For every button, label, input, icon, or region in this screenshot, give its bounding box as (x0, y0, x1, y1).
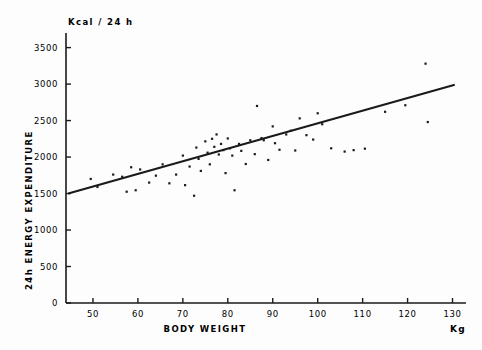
data-point (215, 133, 217, 135)
x-tick-label: 70 (177, 309, 189, 319)
data-point (299, 117, 301, 119)
data-point (272, 125, 274, 127)
data-point (256, 105, 258, 107)
data-point (90, 178, 92, 180)
chart-figure: Kcal / 24 h 24h ENERGY EXPENDITURE BODY … (0, 0, 482, 350)
data-point (182, 154, 184, 156)
data-point (240, 150, 242, 152)
data-point (317, 112, 319, 114)
y-axis-label: 24h ENERGY EXPENDITURE (24, 130, 34, 290)
x-tick-group: 5060708090100110120130 (87, 298, 462, 319)
y-tick-label: 3000 (34, 79, 58, 89)
x-tick-label: 80 (222, 309, 234, 319)
x-tick-label: 90 (267, 309, 279, 319)
data-point (218, 153, 220, 155)
data-point (126, 191, 128, 193)
data-point (231, 154, 233, 156)
y-axis-unit-title: Kcal / 24 h (68, 17, 134, 27)
data-point (162, 163, 164, 165)
data-point (263, 139, 265, 141)
data-point (290, 130, 292, 132)
data-point (260, 137, 262, 139)
data-point (267, 159, 269, 161)
data-point (249, 139, 251, 141)
data-point (229, 147, 231, 149)
data-point (193, 195, 195, 197)
scatter-plot: Kcal / 24 h 24h ENERGY EXPENDITURE BODY … (0, 0, 482, 350)
data-point (155, 175, 157, 177)
data-point (278, 149, 280, 151)
data-point (312, 138, 314, 140)
y-tick-label: 2500 (34, 116, 58, 126)
data-point (148, 181, 150, 183)
data-point (233, 189, 235, 191)
y-tick-label: 1000 (34, 225, 58, 235)
data-point (245, 163, 247, 165)
x-tick-label: 50 (87, 309, 99, 319)
data-point (184, 184, 186, 186)
data-point (168, 182, 170, 184)
data-point (96, 186, 98, 188)
data-point (195, 146, 197, 148)
data-point (206, 152, 208, 154)
data-point (424, 63, 426, 65)
y-tick-label: 500 (40, 262, 58, 272)
data-point (112, 173, 114, 175)
data-point (204, 140, 206, 142)
data-point (364, 148, 366, 150)
data-point (197, 158, 199, 160)
data-point (227, 137, 229, 139)
data-point-group (90, 63, 429, 197)
data-point (294, 149, 296, 151)
data-point (211, 138, 213, 140)
data-point (427, 121, 429, 123)
data-point (121, 176, 123, 178)
data-point (222, 149, 224, 151)
data-point (344, 150, 346, 152)
data-point (305, 134, 307, 136)
data-point (130, 166, 132, 168)
data-point (404, 104, 406, 106)
x-tick-label: 130 (444, 309, 462, 319)
y-tick-label: 2000 (34, 152, 58, 162)
x-tick-label: 120 (399, 309, 417, 319)
data-point (188, 165, 190, 167)
x-tick-label: 110 (354, 309, 372, 319)
data-point (175, 173, 177, 175)
x-axis-label: BODY WEIGHT (164, 324, 247, 334)
data-point (330, 147, 332, 149)
x-tick-label: 100 (309, 309, 327, 319)
data-point (384, 111, 386, 113)
data-point (274, 142, 276, 144)
data-point (220, 143, 222, 145)
data-point (353, 149, 355, 151)
data-point (321, 123, 323, 125)
x-axis-unit: Kg (450, 324, 466, 334)
data-point (200, 170, 202, 172)
data-point (238, 143, 240, 145)
data-point (135, 189, 137, 191)
y-tick-label: 1500 (34, 189, 58, 199)
data-point (213, 146, 215, 148)
x-tick-label: 60 (132, 309, 144, 319)
data-point (254, 153, 256, 155)
data-point (285, 133, 287, 135)
data-point (209, 163, 211, 165)
y-tick-label: 0 (52, 298, 58, 308)
data-point (224, 172, 226, 174)
y-tick-label: 3500 (34, 43, 58, 53)
data-point (139, 168, 141, 170)
